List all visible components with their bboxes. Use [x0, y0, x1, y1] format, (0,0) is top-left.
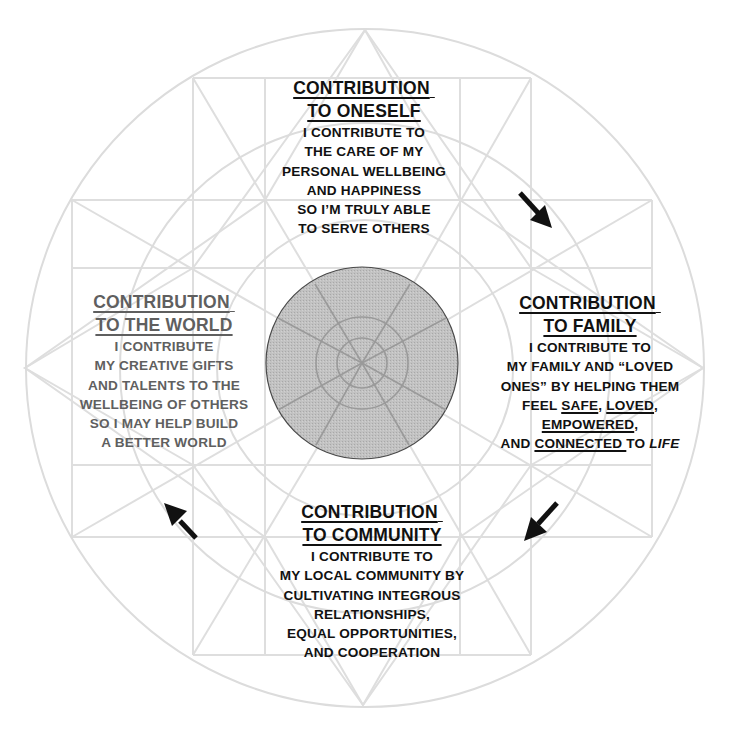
body-line: ONES” BY HELPING THEM: [470, 377, 710, 396]
section-world-title: CONTRIBUTION: [48, 291, 280, 314]
section-oneself: CONTRIBUTION TO ONESELF I CONTRIBUTE TO …: [224, 77, 504, 239]
body-line: FEEL SAFE, LOVED,: [470, 396, 710, 415]
body-line: EMPOWERED,: [470, 415, 710, 434]
title-line-2-wrap: TO FAMILY: [470, 315, 710, 338]
section-world-body: I CONTRIBUTE MY CREATIVE GIFTS AND TALEN…: [48, 337, 280, 453]
section-family-body: I CONTRIBUTE TO MY FAMILY AND “LOVED ONE…: [470, 338, 710, 454]
arrow-oneself-to-family-icon: [520, 193, 552, 228]
body-line: AND CONNECTED TO LIFE: [470, 434, 710, 453]
center-disc: [266, 267, 458, 459]
section-community-body: I CONTRIBUTE TO MY LOCAL COMMUNITY BY CU…: [240, 547, 504, 663]
body-line: AND COOPERATION: [240, 643, 504, 662]
text-fragment: ,: [634, 417, 638, 432]
body-line: I CONTRIBUTE TO: [240, 547, 504, 566]
section-oneself-title: CONTRIBUTION: [224, 77, 504, 100]
text-fragment: TO: [626, 436, 649, 451]
title-line-1: CONTRIBUTION: [301, 502, 438, 522]
body-line: AND TALENTS TO THE: [48, 376, 280, 395]
body-line: WELLBEING OF OTHERS: [48, 395, 280, 414]
title-line-2-wrap: TO COMMUNITY: [240, 524, 504, 547]
title-line-1: CONTRIBUTION: [293, 78, 430, 98]
title-line-2: TO ONESELF: [307, 101, 421, 121]
body-line: I CONTRIBUTE TO: [470, 338, 710, 357]
title-line-1: CONTRIBUTION: [519, 293, 656, 313]
section-family-title: CONTRIBUTION: [470, 292, 710, 315]
section-community-title: CONTRIBUTION: [240, 501, 504, 524]
keyword-life: LIFE: [649, 436, 679, 451]
title-line-2-wrap: TO THE WORLD: [48, 314, 280, 337]
section-world: CONTRIBUTION TO THE WORLD I CONTRIBUTE M…: [48, 291, 280, 453]
section-oneself-body: I CONTRIBUTE TO THE CARE OF MY PERSONAL …: [224, 123, 504, 239]
title-line-2: TO COMMUNITY: [302, 525, 441, 545]
body-line: THE CARE OF MY: [224, 142, 504, 161]
body-line: EQUAL OPPORTUNITIES,: [240, 624, 504, 643]
body-line: PERSONAL WELLBEING: [224, 162, 504, 181]
body-line: SO I MAY HELP BUILD: [48, 414, 280, 433]
keyword-connected: CONNECTED: [534, 436, 626, 451]
section-community: CONTRIBUTION TO COMMUNITY I CONTRIBUTE T…: [240, 501, 504, 663]
title-line-1: CONTRIBUTION: [93, 292, 230, 312]
text-fragment: FEEL: [522, 398, 561, 413]
body-line: A BETTER WORLD: [48, 433, 280, 452]
keyword-safe: SAFE: [561, 398, 598, 413]
body-line: I CONTRIBUTE TO: [224, 123, 504, 142]
body-line: MY LOCAL COMMUNITY BY: [240, 566, 504, 585]
title-line-2: TO THE WORLD: [95, 315, 232, 335]
title-line-2: TO FAMILY: [543, 316, 636, 336]
body-line: I CONTRIBUTE: [48, 337, 280, 356]
title-line-2-wrap: TO ONESELF: [224, 100, 504, 123]
body-line: MY CREATIVE GIFTS: [48, 356, 280, 375]
text-fragment: ,: [654, 398, 658, 413]
body-line: SO I’M TRULY ABLE: [224, 200, 504, 219]
keyword-empowered: EMPOWERED: [542, 417, 634, 432]
body-line: RELATIONSHIPS,: [240, 605, 504, 624]
arrow-family-to-community-icon: [524, 503, 557, 541]
keyword-loved: LOVED: [606, 398, 654, 413]
arrow-community-to-world-icon: [164, 503, 196, 538]
body-line: MY FAMILY AND “LOVED: [470, 357, 710, 376]
body-line: CULTIVATING INTEGROUS: [240, 586, 504, 605]
body-line: TO SERVE OTHERS: [224, 219, 504, 238]
body-line: AND HAPPINESS: [224, 181, 504, 200]
section-family: CONTRIBUTION TO FAMILY I CONTRIBUTE TO M…: [470, 292, 710, 454]
text-fragment: AND: [500, 436, 534, 451]
